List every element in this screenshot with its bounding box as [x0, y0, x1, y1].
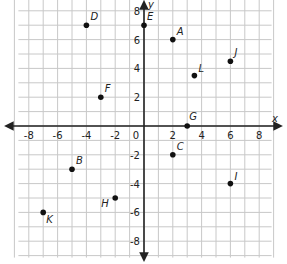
point-label: E [147, 11, 154, 22]
point-label: G [189, 111, 197, 122]
point-label: C [177, 141, 184, 152]
y-tick-label: -6 [130, 207, 140, 218]
point-marker [40, 210, 46, 216]
point-label: A [176, 26, 184, 37]
coordinate-plane: xy -8-6-4-2246808642-2-4-6-8 ABCDEFGHIJK… [0, 0, 287, 264]
point-label: D [90, 11, 98, 22]
point-marker [192, 73, 198, 79]
y-tick-label: 6 [134, 35, 140, 46]
point-marker [184, 123, 190, 129]
point-label: K [46, 214, 54, 225]
x-tick-label: 8 [256, 130, 262, 141]
point-label: J [232, 47, 237, 58]
x-tick-label: 4 [198, 130, 204, 141]
x-tick-label: -2 [110, 130, 120, 141]
point-j: J [228, 47, 238, 64]
x-tick-label: -4 [81, 130, 91, 141]
y-tick-label: 2 [134, 92, 140, 103]
y-axis-label: y [147, 0, 155, 10]
y-tick-label: 4 [134, 63, 140, 74]
point-marker [170, 152, 176, 158]
x-axis-label: x [271, 113, 278, 124]
point-marker [98, 94, 104, 100]
point-marker [84, 22, 90, 28]
point-label: H [101, 198, 109, 209]
x-tick-label: -6 [53, 130, 63, 141]
point-label: L [198, 63, 204, 74]
y-tick-label: -8 [130, 236, 140, 247]
point-marker [69, 166, 75, 172]
y-tick-label: -2 [130, 150, 140, 161]
point-label: I [234, 171, 237, 182]
y-tick-label: -4 [130, 179, 140, 190]
x-tick-label: 6 [227, 130, 233, 141]
point-marker [228, 58, 234, 64]
x-tick-label: 2 [170, 130, 176, 141]
point-l: L [192, 63, 204, 79]
point-marker [170, 37, 176, 43]
point-marker [112, 195, 118, 201]
origin-label: 0 [133, 130, 139, 141]
point-label: F [105, 83, 111, 94]
point-marker [228, 181, 234, 187]
y-tick-label: 8 [134, 6, 140, 17]
point-label: B [76, 155, 83, 166]
x-tick-label: -8 [24, 130, 34, 141]
point-marker [141, 22, 147, 28]
